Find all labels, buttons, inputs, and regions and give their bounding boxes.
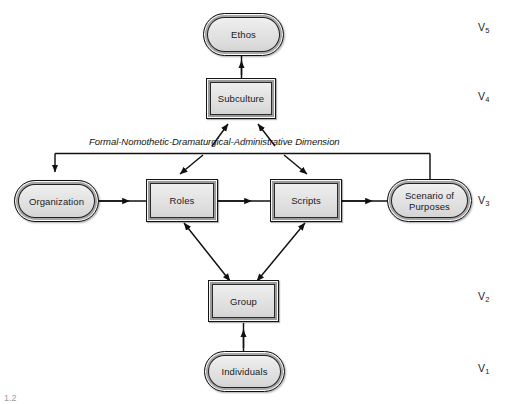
level-marker-v1-sub: 1: [485, 367, 489, 376]
edge-group-to-roles: [184, 223, 230, 281]
node-subculture[interactable]: Subculture: [206, 78, 276, 119]
level-marker-v2-sub: 2: [485, 295, 489, 304]
node-subculture-label: Subculture: [215, 93, 267, 104]
level-marker-v3-sub: 3: [485, 199, 489, 208]
node-group[interactable]: Group: [208, 280, 279, 322]
edge-group-to-scripts: [257, 223, 305, 281]
level-marker-v5-sub: 5: [485, 26, 489, 35]
node-organization-label: Organization: [26, 196, 87, 207]
node-scripts-label: Scripts: [288, 195, 324, 206]
node-organization[interactable]: Organization: [14, 180, 99, 222]
level-marker-v2: V2: [478, 290, 489, 302]
node-individuals[interactable]: Individuals: [204, 351, 285, 392]
node-scripts[interactable]: Scripts: [270, 179, 342, 222]
node-ethos-label: Ethos: [228, 29, 259, 40]
node-roles[interactable]: Roles: [146, 179, 218, 222]
level-marker-v4: V4: [478, 90, 489, 102]
node-scenario-of-purposes[interactable]: Scenario of Purposes: [387, 179, 472, 222]
level-marker-v1-label: V: [478, 362, 485, 374]
node-individuals-label: Individuals: [219, 366, 271, 377]
level-marker-v2-label: V: [478, 290, 485, 302]
node-roles-label: Roles: [167, 195, 198, 206]
diagram-canvas: Ethos Subculture Organization Roles Scri…: [0, 0, 509, 404]
edge-dimension-to-roles: [180, 155, 203, 174]
node-scenario-of-purposes-label: Scenario of Purposes: [388, 190, 471, 212]
level-marker-v5-label: V: [478, 21, 485, 33]
level-marker-v1: V1: [478, 362, 489, 374]
dimension-label: Formal-Nomothetic-Dramaturgical-Administ…: [89, 136, 340, 147]
level-marker-v3: V3: [478, 194, 489, 206]
edge-dimension-to-scripts: [284, 155, 307, 174]
level-marker-v4-label: V: [478, 90, 485, 102]
level-marker-v3-label: V: [478, 194, 485, 206]
edge-dimension-bar: [55, 154, 430, 180]
node-ethos[interactable]: Ethos: [203, 13, 284, 56]
level-marker-v4-sub: 4: [485, 95, 489, 104]
level-marker-v5: V5: [478, 21, 489, 33]
node-group-label: Group: [227, 296, 260, 307]
caption-fragment: 1.2: [4, 393, 17, 402]
